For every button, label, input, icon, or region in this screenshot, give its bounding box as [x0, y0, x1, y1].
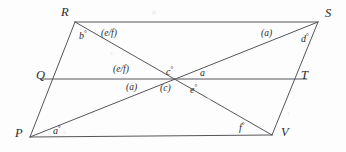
paper-speckle-3: [110, 52, 113, 55]
side-PV: [30, 135, 272, 137]
segment-group: [30, 22, 318, 137]
paper-speckle-4: [287, 112, 290, 115]
degree-symbol-icon: °: [84, 29, 87, 37]
paper-speckle-1: [152, 10, 156, 15]
degree-symbol-icon: °: [306, 32, 309, 40]
angle-a-mid-left: (a): [126, 83, 137, 93]
angle-c-below-text: (c): [160, 83, 171, 93]
angle-ef-mid-left-text: (e/f): [113, 64, 129, 74]
vertex-label-s: S: [325, 7, 331, 20]
vertex-label-t: T: [301, 69, 308, 82]
angle-a-right: a: [200, 68, 205, 78]
vertex-label-q: Q: [36, 69, 45, 82]
paper-speckle-2: [207, 97, 211, 100]
angle-b-at-R: b°: [79, 30, 87, 41]
degree-symbol-icon: °: [242, 121, 245, 129]
angle-a-upper-right-text: (a): [261, 28, 272, 38]
angle-ef-mid-left: (e/f): [113, 65, 129, 75]
angle-c-above: c°: [166, 66, 173, 77]
angle-ef-upper-left: (e/f): [101, 29, 117, 39]
degree-symbol-icon: °: [58, 124, 61, 132]
angle-a-upper-right: (a): [261, 29, 272, 39]
paper-speckle-0: [63, 131, 66, 134]
angle-d-at-S: d°: [301, 33, 309, 44]
angle-c-below: (c): [160, 84, 171, 94]
angle-ef-upper-left-text: (e/f): [101, 28, 117, 38]
angle-a-right-text: a: [200, 67, 205, 78]
vertex-label-v: V: [281, 126, 289, 139]
degree-symbol-icon: °: [194, 83, 197, 91]
angle-f-at-V: f°: [239, 122, 245, 133]
angle-a-mid-left-text: (a): [126, 82, 137, 92]
geometry-figure: RSQTPV b°(e/f)(a)d°(e/f)c°a(a)(c)e°a°f°: [0, 0, 346, 152]
vertex-label-p: P: [15, 127, 23, 140]
degree-symbol-icon: °: [170, 65, 173, 73]
angle-e-below: e°: [190, 84, 197, 95]
angle-a-at-P: a°: [53, 125, 61, 136]
vertex-label-r: R: [61, 6, 69, 19]
